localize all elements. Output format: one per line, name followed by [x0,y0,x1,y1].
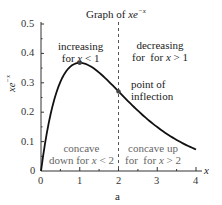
x-tick-label: 4 [193,175,198,187]
y-tick-label: 0.2 [21,106,34,118]
x-tick-label: 0 [38,175,43,187]
x-axis-label: x [204,164,209,176]
y-axis-label: xe−x [2,75,18,92]
y-tick-label: 0.3 [21,77,34,89]
annotation-decreasing: decreasing for for x > 1 [132,39,188,63]
caption: a [115,190,120,202]
annotation-concave-down: concave down for x < 2 [49,142,114,166]
y-tick-label: 0.5 [21,18,34,30]
x-tick-label: 2 [116,175,121,187]
annotation-increasing: increasing for x < 1 [58,40,103,64]
x-ticks [60,167,196,171]
y-tick-label: 0.1 [21,136,34,148]
y-tick-label: 0.4 [21,47,34,59]
annotation-concave-up: concave up for for x > 2 [125,142,181,166]
inflection-point [116,89,120,93]
y-tick-label: 0 [30,165,35,177]
x-tick-label: 1 [77,175,82,187]
x-tick-label: 3 [154,175,159,187]
chart-title: Graph of xe−x [86,5,146,20]
annotation-inflection: point of inflection [131,78,173,102]
